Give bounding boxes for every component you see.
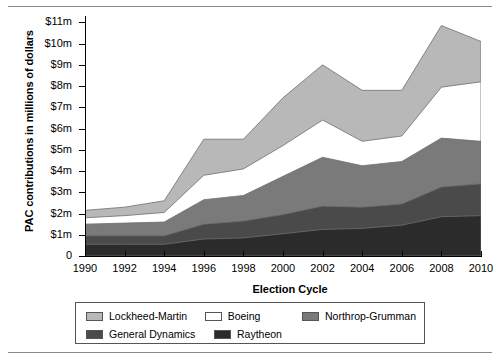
x-tick-label: 1996 [182,262,226,274]
legend-label: Raytheon [237,328,282,340]
legend-label: Northrop-Grumman [325,310,416,322]
x-tick-label: 2006 [380,262,424,274]
x-tick-label: 2010 [459,262,500,274]
x-tick-label: 1994 [142,262,186,274]
area-series-group [85,16,481,256]
x-axis-title: Election Cycle [85,283,495,295]
chart-page: PAC contributions in millions of dollars… [0,0,500,360]
y-tick-mark [79,86,85,87]
legend-row-2: General Dynamics Raytheon [86,326,416,342]
x-tick-mark [85,251,86,257]
x-tick-label: 1990 [63,262,107,274]
y-tick-label: $8m [28,80,72,91]
y-tick-label: $3m [28,186,72,197]
x-tick-label: 1998 [221,262,265,274]
legend-swatch-icon [302,312,319,321]
legend-item-northrop-grumman[interactable]: Northrop-Grumman [302,310,416,322]
y-axis-line [85,16,86,257]
x-tick-label: 2004 [340,262,384,274]
x-tick-mark [441,251,442,257]
y-tick-label: $2m [28,208,72,219]
x-tick-mark [125,251,126,257]
bottom-divider-rule [8,352,492,353]
x-tick-label: 2002 [301,262,345,274]
y-tick-label: $5m [28,144,72,155]
plot-area [85,16,481,256]
x-tick-mark [323,251,324,257]
legend-item-raytheon[interactable]: Raytheon [214,328,319,340]
legend-swatch-icon [86,330,103,339]
x-tick-mark [243,251,244,257]
y-tick-label: $7m [28,101,72,112]
y-tick-label: $10m [28,38,72,49]
x-tick-mark [362,251,363,257]
x-tick-label: 1992 [103,262,147,274]
x-tick-mark [164,251,165,257]
y-tick-mark [79,192,85,193]
legend-swatch-icon [205,312,222,321]
y-tick-mark [79,235,85,236]
stacked-area-chart: PAC contributions in millions of dollars… [0,0,500,300]
y-tick-label: 0 [28,250,72,261]
y-tick-mark [79,150,85,151]
x-tick-mark [283,251,284,257]
legend-row-1: Lockheed-Martin Boeing Northrop-Grumman [86,308,416,324]
chart-legend: Lockheed-Martin Boeing Northrop-Grumman … [75,302,425,344]
y-tick-mark [79,44,85,45]
y-tick-label: $4m [28,165,72,176]
y-tick-label: $11m [28,16,72,27]
x-tick-mark [204,251,205,257]
y-tick-mark [79,214,85,215]
legend-item-boeing[interactable]: Boeing [205,310,302,322]
x-tick-label: 2008 [419,262,463,274]
legend-label: Boeing [228,310,261,322]
legend-label: General Dynamics [109,328,195,340]
y-tick-mark [79,65,85,66]
x-tick-label: 2000 [261,262,305,274]
legend-swatch-icon [86,312,103,321]
y-tick-mark [79,171,85,172]
x-tick-mark [402,251,403,257]
legend-item-general-dynamics[interactable]: General Dynamics [86,328,214,340]
y-tick-mark [79,107,85,108]
y-tick-label: $6m [28,123,72,134]
y-tick-mark [79,22,85,23]
y-tick-label: $1m [28,229,72,240]
y-tick-label: $9m [28,59,72,70]
legend-label: Lockheed-Martin [109,310,187,322]
y-tick-mark [79,129,85,130]
x-tick-mark [481,251,482,257]
legend-item-lockheed-martin[interactable]: Lockheed-Martin [86,310,205,322]
legend-swatch-icon [214,330,231,339]
